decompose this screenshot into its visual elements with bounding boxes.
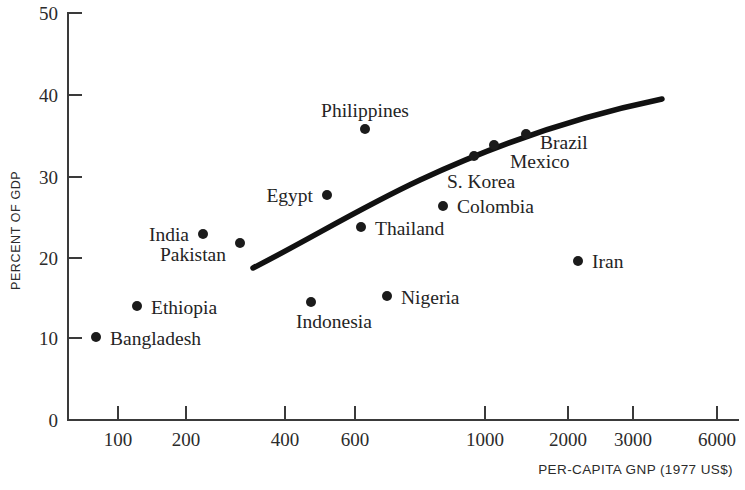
data-point-egypt[interactable] (322, 190, 332, 200)
data-point-nigeria[interactable] (382, 291, 392, 301)
point-label-ethiopia: Ethiopia (151, 297, 217, 318)
point-label-bangladesh: Bangladesh (110, 328, 201, 349)
data-point-indonesia[interactable] (306, 297, 316, 307)
x-tick-label-2000: 2000 (549, 429, 587, 450)
point-label-nigeria: Nigeria (401, 287, 460, 308)
x-tick-label-6000: 6000 (698, 429, 736, 450)
data-point-brazil[interactable] (521, 129, 531, 139)
y-tick-label-20: 20 (39, 248, 58, 269)
x-axis-title: PER-CAPITA GNP (1977 US$) (538, 462, 733, 477)
point-label-pakistan: Pakistan (160, 244, 226, 265)
point-label-egypt: Egypt (266, 185, 313, 206)
axis-frame (68, 13, 738, 420)
data-point-colombia[interactable] (438, 201, 448, 211)
y-tick-label-30: 30 (39, 167, 58, 188)
data-point-thailand[interactable] (356, 222, 366, 232)
data-point-india[interactable] (198, 229, 208, 239)
x-axis-ticks (118, 406, 717, 420)
x-tick-label-200: 200 (172, 429, 201, 450)
point-label-colombia: Colombia (457, 196, 534, 217)
data-point-mexico[interactable] (489, 140, 499, 150)
x-tick-label-400: 400 (271, 429, 300, 450)
y-tick-label-0: 0 (49, 410, 59, 431)
y-tick-label-50: 50 (39, 3, 58, 24)
chart-page: 50 40 30 20 10 0 100 200 400 600 1000 20… (0, 0, 745, 490)
point-label-iran: Iran (592, 251, 624, 272)
x-tick-label-3000: 3000 (614, 429, 652, 450)
data-point-skorea[interactable] (469, 151, 479, 161)
y-axis-ticks (68, 13, 82, 420)
point-label-indonesia: Indonesia (296, 311, 372, 332)
x-tick-label-600: 600 (341, 429, 370, 450)
point-label-india: India (149, 224, 189, 245)
point-label-thailand: Thailand (375, 218, 445, 239)
y-axis-tick-labels: 50 40 30 20 10 0 (39, 3, 58, 431)
point-label-philippines: Philippines (321, 100, 409, 121)
x-axis-tick-labels: 100 200 400 600 1000 2000 3000 6000 (104, 429, 736, 450)
point-label-skorea: S. Korea (447, 171, 516, 192)
point-label-brazil: Brazil (540, 132, 588, 153)
y-tick-label-10: 10 (39, 328, 58, 349)
data-point-philippines[interactable] (360, 124, 370, 134)
y-axis-title: PERCENT OF GDP (9, 171, 23, 290)
point-label-mexico: Mexico (510, 151, 570, 172)
data-point-labels: Bangladesh Ethiopia India Pakistan Indon… (110, 100, 624, 349)
data-point-bangladesh[interactable] (91, 332, 101, 342)
data-point-iran[interactable] (573, 256, 583, 266)
y-tick-label-40: 40 (39, 85, 58, 106)
scatter-plot: 50 40 30 20 10 0 100 200 400 600 1000 20… (0, 0, 745, 490)
data-point-ethiopia[interactable] (132, 301, 142, 311)
x-tick-label-1000: 1000 (466, 429, 504, 450)
x-tick-label-100: 100 (104, 429, 133, 450)
data-point-pakistan[interactable] (235, 238, 245, 248)
